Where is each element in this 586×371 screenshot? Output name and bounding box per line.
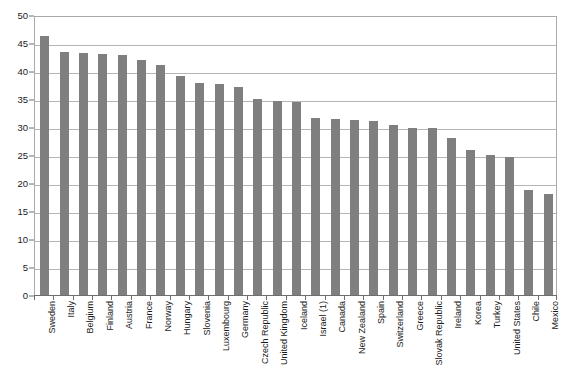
y-axis-tick-label: 0 <box>0 291 28 301</box>
x-axis-labels: SwedenItalyBelgiumFinlandAustriaFranceNo… <box>34 301 557 371</box>
x-axis-tick-label: Luxembourg <box>222 301 231 351</box>
x-axis-tick-mark <box>189 296 190 300</box>
x-axis-tick-mark <box>170 296 171 300</box>
x-axis-tick-mark <box>383 296 384 300</box>
x-axis-tick-label: Israel (1) <box>319 301 328 337</box>
x-axis-tick-label: Italy <box>67 301 76 318</box>
bar <box>408 128 417 295</box>
y-axis-tick-label: 40 <box>0 67 28 77</box>
y-axis-tick-label: 5 <box>0 263 28 273</box>
x-axis-tick-label: Czech Republic <box>261 301 270 364</box>
x-axis-label-slot: Mexico <box>551 301 560 330</box>
bar <box>486 155 495 295</box>
x-axis-label-slot: Turkey <box>493 301 502 328</box>
x-axis-tick-label: United Kingdom <box>280 301 289 365</box>
bar <box>350 120 359 295</box>
x-axis-tick-label: Germany <box>241 301 250 338</box>
x-axis-tick-mark <box>247 296 248 300</box>
x-axis-label-slot: Italy <box>67 301 76 318</box>
x-axis-tick-label: Belgium <box>86 301 95 334</box>
x-axis-tick-mark <box>402 296 403 300</box>
y-axis-tick-label: 30 <box>0 123 28 133</box>
x-axis-label-slot: Spain <box>377 301 386 324</box>
x-axis-label-slot: Sweden <box>48 301 57 334</box>
y-axis-tick-label: 35 <box>0 95 28 105</box>
x-axis-tick-mark <box>111 296 112 300</box>
x-axis-label-slot: Slovak Republic <box>435 301 444 366</box>
x-axis-tick-mark <box>150 296 151 300</box>
bar <box>292 102 301 295</box>
y-axis-tick-label: 20 <box>0 179 28 189</box>
x-axis-tick-label: United States <box>513 301 522 355</box>
x-axis-label-slot: Switzerland <box>396 301 405 348</box>
x-axis-label-slot: Canada <box>338 301 347 333</box>
x-axis-tick-mark <box>305 296 306 300</box>
bar <box>176 76 185 295</box>
bar <box>156 65 165 295</box>
x-axis-tick-label: Greece <box>416 301 425 331</box>
x-axis-tick-mark <box>34 296 35 300</box>
x-axis-tick-mark <box>538 296 539 300</box>
x-axis-tick-mark <box>499 296 500 300</box>
bar <box>369 121 378 295</box>
bar <box>234 87 243 295</box>
x-axis-tick-mark <box>53 296 54 300</box>
bar <box>215 84 224 295</box>
x-axis-tick-mark <box>325 296 326 300</box>
x-axis-tick-label: Mexico <box>551 301 560 330</box>
bar <box>273 101 282 295</box>
x-axis-tick-label: Korea <box>474 301 483 325</box>
x-axis-tick-mark <box>73 296 74 300</box>
x-axis-tick-mark <box>344 296 345 300</box>
x-axis-tick-label: Spain <box>377 301 386 324</box>
bar <box>447 138 456 295</box>
x-axis-label-slot: New Zealand <box>358 301 367 354</box>
x-axis-label-slot: United Kingdom <box>280 301 289 365</box>
x-axis-label-slot: Luxembourg <box>222 301 231 351</box>
x-axis-tick-mark <box>363 296 364 300</box>
bar <box>524 190 533 295</box>
x-axis-label-slot: Finland <box>106 301 115 331</box>
y-axis-tick-label: 10 <box>0 235 28 245</box>
x-axis-tick-mark <box>208 296 209 300</box>
x-axis-tick-label: Turkey <box>493 301 502 328</box>
y-axis-tick-label: 50 <box>0 11 28 21</box>
x-axis-label-slot: Norway <box>164 301 173 332</box>
bar <box>505 157 514 295</box>
bar <box>98 54 107 295</box>
x-axis-tick-label: Hungary <box>183 301 192 335</box>
bar <box>79 53 88 295</box>
bar <box>311 118 320 295</box>
x-axis-label-slot: Hungary <box>183 301 192 335</box>
bar <box>466 150 475 295</box>
bar <box>40 36 49 295</box>
x-axis-tick-label: France <box>145 301 154 329</box>
x-axis-tick-mark <box>556 296 557 300</box>
x-axis-label-slot: Germany <box>241 301 250 338</box>
bar <box>389 125 398 295</box>
x-axis-tick-label: Norway <box>164 301 173 332</box>
bar <box>253 99 262 295</box>
x-axis-tick-mark <box>228 296 229 300</box>
bar <box>60 52 69 295</box>
x-axis-tick-mark <box>460 296 461 300</box>
x-axis-tick-mark <box>518 296 519 300</box>
x-axis-tick-label: Switzerland <box>396 301 405 348</box>
x-axis-tick-mark <box>131 296 132 300</box>
y-axis-tick-label: 45 <box>0 39 28 49</box>
x-axis-label-slot: Belgium <box>86 301 95 334</box>
x-axis-tick-mark <box>286 296 287 300</box>
x-axis-tick-label: Canada <box>338 301 347 333</box>
bar <box>331 119 340 295</box>
x-axis-label-slot: Ireland <box>454 301 463 329</box>
x-axis-tick-mark <box>92 296 93 300</box>
x-axis-tick-label: Chile <box>532 301 541 322</box>
x-axis-tick-mark <box>421 296 422 300</box>
x-axis-tick-label: New Zealand <box>358 301 367 354</box>
bar <box>118 55 127 295</box>
x-axis-tick-label: Slovenia <box>203 301 212 336</box>
x-axis-tick-mark <box>441 296 442 300</box>
bar <box>195 83 204 295</box>
x-axis-label-slot: Chile <box>532 301 541 322</box>
y-axis-tick-label: 15 <box>0 207 28 217</box>
